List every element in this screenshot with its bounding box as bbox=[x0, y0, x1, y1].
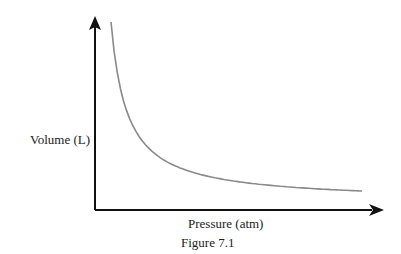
x-axis-label: Pressure (atm) bbox=[188, 216, 263, 232]
pv-curve bbox=[111, 22, 362, 191]
figure-caption: Figure 7.1 bbox=[181, 235, 234, 251]
y-axis-label: Volume (L) bbox=[30, 132, 90, 148]
